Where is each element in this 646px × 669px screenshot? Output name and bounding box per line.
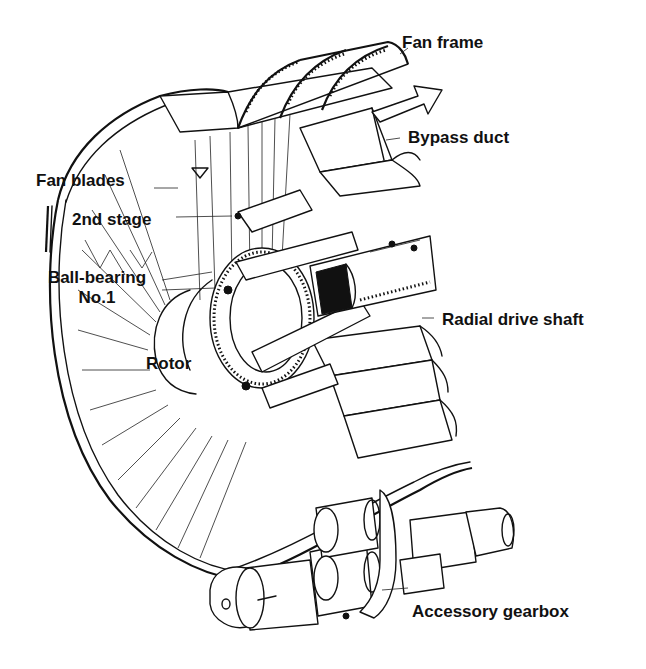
label-ball-bearing-line1: Ball-bearing (34, 268, 160, 288)
label-radial-drive-shaft: Radial drive shaft (442, 310, 584, 330)
label-ball-bearing: Ball-bearing No.1 (34, 268, 160, 308)
label-bypass-duct: Bypass duct (408, 128, 509, 148)
label-rotor: Rotor (146, 354, 191, 374)
engine-cutaway-diagram: Fan frame Bypass duct Fan blades 2nd sta… (0, 0, 646, 669)
label-ball-bearing-line2: No.1 (34, 288, 160, 308)
airflow-arrow-icon (372, 86, 442, 122)
label-accessory-gearbox: Accessory gearbox (412, 602, 569, 622)
label-second-stage: 2nd stage (72, 210, 151, 230)
label-fan-blades: Fan blades (36, 171, 125, 191)
label-fan-frame: Fan frame (402, 33, 483, 53)
engine-illustration (0, 0, 646, 669)
